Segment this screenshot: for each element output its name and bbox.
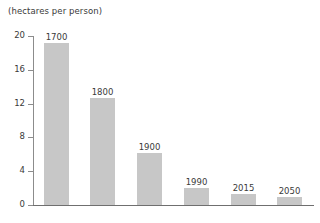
y-axis-tick bbox=[28, 36, 33, 37]
y-axis-line bbox=[33, 36, 34, 206]
bar-chart: (hectares per person) 048121620 17001800… bbox=[0, 0, 320, 223]
bar bbox=[44, 43, 69, 205]
bar bbox=[184, 188, 209, 205]
y-axis-tick-label: 12 bbox=[3, 99, 25, 108]
y-axis-tick bbox=[28, 171, 33, 172]
bar bbox=[277, 197, 302, 205]
bar bbox=[90, 98, 115, 205]
y-axis-tick bbox=[28, 104, 33, 105]
bar-value-label: 2015 bbox=[223, 183, 264, 193]
y-axis-tick bbox=[28, 137, 33, 138]
y-axis-tick-label: 4 bbox=[3, 166, 25, 175]
bar bbox=[231, 194, 256, 205]
y-axis-tick bbox=[28, 205, 33, 206]
bar-value-label: 1800 bbox=[82, 87, 123, 97]
y-axis-tick-label: 16 bbox=[3, 65, 25, 74]
bar-value-label: 2050 bbox=[269, 186, 310, 196]
chart-title: (hectares per person) bbox=[8, 6, 102, 17]
bar-value-label: 1700 bbox=[36, 32, 77, 42]
bar-value-label: 1900 bbox=[129, 142, 170, 152]
x-axis-line bbox=[33, 205, 314, 206]
y-axis-tick bbox=[28, 70, 33, 71]
bar bbox=[137, 153, 162, 205]
y-axis-tick-label: 20 bbox=[3, 31, 25, 40]
y-axis-tick-label: 0 bbox=[3, 200, 25, 209]
bar-value-label: 1990 bbox=[176, 177, 217, 187]
y-axis-tick-label: 8 bbox=[3, 132, 25, 141]
